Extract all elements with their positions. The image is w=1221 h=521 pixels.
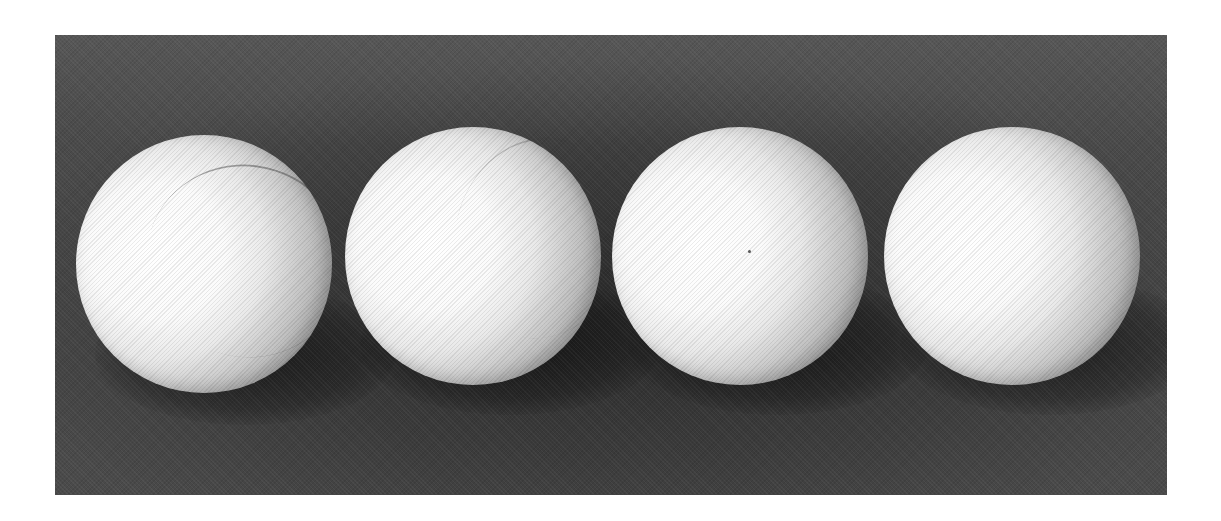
photo xyxy=(55,35,1167,495)
sphere-3 xyxy=(612,127,868,385)
sphere-speck xyxy=(748,250,751,253)
sphere-4 xyxy=(884,127,1140,385)
sphere-1 xyxy=(76,135,332,393)
sphere-2 xyxy=(345,127,601,385)
